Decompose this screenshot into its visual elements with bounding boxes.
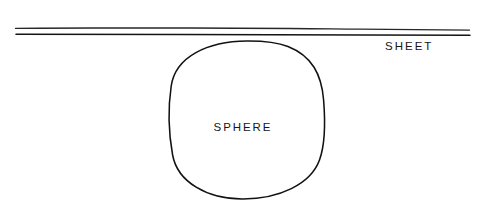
sheet-upper-line	[16, 28, 470, 30]
diagram-drawing	[0, 0, 484, 224]
sheet-lower-line	[16, 34, 470, 35]
sphere-outline	[169, 41, 325, 199]
sheet-label: SHEET	[385, 40, 433, 52]
sphere-label: SPHERE	[0, 121, 484, 133]
diagram-canvas: SHEET SPHERE	[0, 0, 484, 224]
